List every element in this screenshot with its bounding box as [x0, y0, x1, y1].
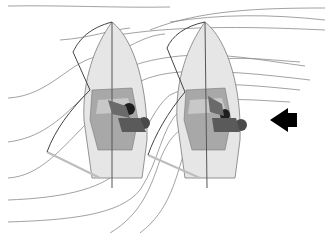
- sailing-diagram: [0, 0, 325, 233]
- diagram-canvas: [0, 0, 325, 233]
- boat-right: [148, 22, 247, 188]
- sailor2-body: [212, 118, 240, 132]
- sail-leech: [47, 90, 90, 152]
- boat-left: [47, 22, 150, 188]
- wind-arrow-icon: [270, 108, 297, 132]
